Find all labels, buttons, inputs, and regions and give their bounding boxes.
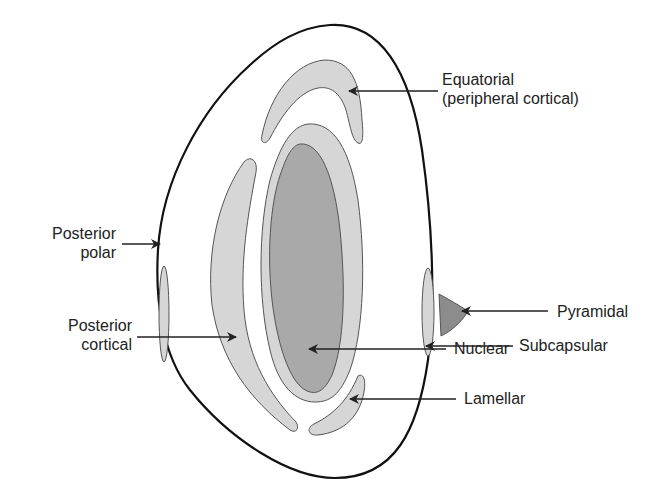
label-posterior-cortical-line2: cortical	[46, 335, 132, 354]
posterior-polar-opacity	[159, 266, 169, 362]
label-posterior-cortical: Posterior cortical	[46, 316, 132, 354]
label-equatorial: Equatorial (peripheral cortical)	[442, 70, 579, 108]
label-subcapsular: Subcapsular	[519, 336, 608, 355]
label-lamellar: Lamellar	[464, 389, 525, 408]
label-nuclear: Nuclear	[454, 339, 509, 358]
label-posterior-cortical-line1: Posterior	[46, 316, 132, 335]
label-posterior-polar-line2: polar	[30, 243, 116, 262]
label-pyramidal: Pyramidal	[557, 302, 628, 321]
label-equatorial-line1: Equatorial	[442, 70, 579, 89]
pyramidal-opacity	[439, 294, 468, 336]
label-posterior-polar: Posterior polar	[30, 224, 116, 262]
label-equatorial-line2: (peripheral cortical)	[442, 89, 579, 108]
label-posterior-polar-line1: Posterior	[30, 224, 116, 243]
subcapsular-opacity	[422, 268, 434, 356]
